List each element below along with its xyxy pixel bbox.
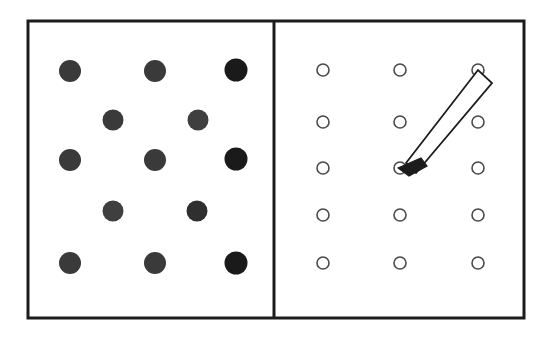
filled-dot[interactable]	[59, 149, 81, 171]
filled-dot[interactable]	[225, 148, 248, 171]
filled-dot[interactable]	[103, 110, 124, 131]
open-circle[interactable]	[317, 116, 329, 128]
open-circle[interactable]	[394, 257, 406, 269]
open-circle[interactable]	[472, 257, 484, 269]
filled-dot[interactable]	[144, 60, 166, 82]
filled-dot[interactable]	[103, 201, 124, 222]
open-circle[interactable]	[394, 116, 406, 128]
filled-dot[interactable]	[144, 149, 166, 171]
filled-dot[interactable]	[59, 60, 81, 82]
open-circle[interactable]	[394, 209, 406, 221]
open-circle[interactable]	[317, 209, 329, 221]
open-circle[interactable]	[317, 64, 329, 76]
open-circle[interactable]	[472, 209, 484, 221]
outer-frame	[28, 21, 524, 318]
filled-dot[interactable]	[187, 201, 208, 222]
open-circle[interactable]	[317, 162, 329, 174]
filled-dot[interactable]	[59, 252, 81, 274]
open-circle[interactable]	[472, 162, 484, 174]
open-circle[interactable]	[394, 64, 406, 76]
filled-dot[interactable]	[225, 252, 248, 275]
open-circle[interactable]	[317, 257, 329, 269]
figure-canvas	[0, 0, 553, 337]
filled-dot[interactable]	[225, 59, 248, 82]
filled-dot[interactable]	[188, 110, 209, 131]
filled-dot[interactable]	[144, 252, 166, 274]
figure-root	[0, 0, 553, 337]
open-circle[interactable]	[472, 116, 484, 128]
